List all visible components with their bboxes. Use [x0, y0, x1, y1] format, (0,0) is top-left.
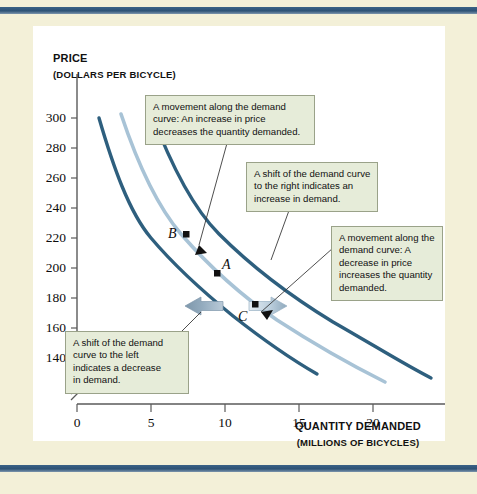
y-tick-label-200: 200 [32, 260, 66, 276]
x-tick-label-15: 15 [287, 415, 311, 431]
callout-shift-left-line-3: indicates a decrease [73, 362, 182, 374]
x-tick-label-5: 5 [139, 415, 163, 431]
y-tick-label-160: 160 [32, 320, 66, 336]
point-label-B: B [168, 226, 177, 242]
leftward-shift-arrow [185, 297, 223, 315]
y-axis-title-sub: (DOLLARS PER BICYCLE) [53, 69, 176, 80]
x-axis-ticks [77, 404, 373, 412]
callout-shift-right-line-3: increase in demand. [254, 193, 371, 205]
x-axis-title-main: QUANTITY DEMANDED [295, 420, 421, 432]
y-tick-label-180: 180 [32, 290, 66, 306]
callout-movement-down-line-2: demand curve: A [339, 244, 436, 256]
y-tick-label-300: 300 [32, 110, 66, 126]
y-axis-title: PRICE (DOLLARS PER BICYCLE) [53, 48, 176, 80]
callout-shift-left-line-2: curve to the left [73, 349, 182, 361]
y-tick-label-140: 140 [32, 350, 66, 366]
y-axis-title-main: PRICE [53, 52, 88, 64]
figure-panel: PRICE (DOLLARS PER BICYCLE) QUANTITY DEM… [33, 26, 445, 441]
callout-shift-left-line-1: A shift of the demand [73, 337, 182, 349]
callout-movement-down-line-3: decrease in price [339, 257, 436, 269]
bottom-rule [0, 465, 477, 472]
callout-movement-down: A movement along the demand curve: A dec… [331, 226, 443, 301]
callout-movement-down-line-4: increases the quantity [339, 269, 436, 281]
x-axis-title-sub: (MILLIONS OF BICYCLES) [283, 437, 433, 448]
callout-movement-down-line-1: A movement along the [339, 232, 436, 244]
callout-movement-up: A movement along the demand curve: An in… [145, 95, 315, 145]
callout-shift-right-line-2: to the right indicates an [254, 180, 371, 192]
callout-shift-left: A shift of the demand curve to the left … [65, 331, 189, 394]
x-tick-label-20: 20 [361, 415, 385, 431]
callout-movement-up-line-3: decreases the quantity demanded. [153, 126, 308, 138]
data-point-A [214, 270, 221, 277]
callout-movement-down-line-5: demanded. [339, 282, 436, 294]
y-tick-label-220: 220 [32, 230, 66, 246]
y-axis-ticks [71, 118, 77, 358]
y-tick-label-280: 280 [32, 140, 66, 156]
x-tick-label-0: 0 [65, 415, 89, 431]
callout-shift-right: A shift of the demand curve to the right… [246, 162, 378, 212]
data-point-C [252, 301, 259, 308]
point-label-A: A [222, 257, 231, 273]
callout-shift-left-line-4: in demand. [73, 374, 182, 386]
y-tick-label-240: 240 [32, 200, 66, 216]
data-point-B [183, 231, 190, 238]
x-tick-label-10: 10 [213, 415, 237, 431]
top-rule [0, 7, 477, 14]
point-label-C: C [238, 309, 247, 325]
callout-movement-up-line-1: A movement along the demand [153, 101, 308, 113]
y-tick-label-260: 260 [32, 170, 66, 186]
callout-shift-right-line-1: A shift of the demand curve [254, 168, 371, 180]
callout-movement-up-line-2: curve: An increase in price [153, 113, 308, 125]
